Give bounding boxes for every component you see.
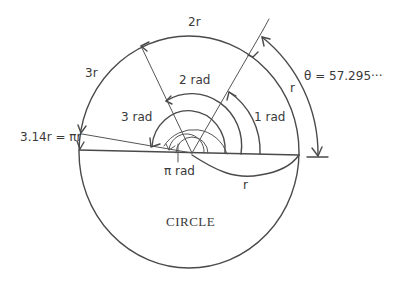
label-1-rad: 1 rad xyxy=(254,110,285,124)
label-2-rad: 2 rad xyxy=(179,73,210,87)
radius-1-rad xyxy=(192,30,263,153)
arc-3-rad-arrow xyxy=(150,138,160,147)
label-r-outer: r xyxy=(290,81,295,95)
label-3-rad: 3 rad xyxy=(121,110,152,124)
label-theta: θ = 57.295··· xyxy=(304,69,382,83)
theta-arc-bottom-arrow xyxy=(312,147,322,156)
small-arc-2 xyxy=(164,130,227,154)
arc-2-rad xyxy=(166,94,242,154)
radian-circle-diagram: 2r 3r 3.14r = πr r r 1 rad 2 rad 3 rad π… xyxy=(0,0,400,284)
label-r-lower: r xyxy=(243,178,248,192)
radius-2-rad xyxy=(141,46,192,153)
label-2r: 2r xyxy=(188,15,201,29)
theta-arc xyxy=(262,37,318,156)
arc-r-lower xyxy=(192,155,299,176)
circle-title: CIRCLE xyxy=(166,214,215,229)
label-pi-r: 3.14r = πr xyxy=(20,130,82,144)
radius-1-rad-ext xyxy=(263,19,269,30)
label-pi-rad: π rad xyxy=(164,164,195,178)
label-3r: 3r xyxy=(85,66,98,80)
arc-1-rad-arrow xyxy=(227,92,236,100)
